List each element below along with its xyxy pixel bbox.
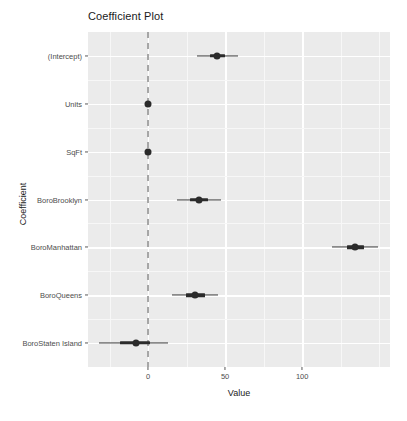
- gridline-major-horizontal: [88, 200, 390, 201]
- y-tick-label: Units: [65, 99, 82, 108]
- y-tick-label: BoroStaten Island: [22, 339, 82, 348]
- x-tick-mark: [148, 367, 149, 370]
- x-tick-label: 100: [296, 372, 309, 381]
- x-tick-label: 0: [146, 372, 150, 381]
- y-tick-mark: [85, 247, 88, 248]
- y-tick-label: BoroQueens: [40, 291, 82, 300]
- coefficient-point: [352, 244, 359, 251]
- y-tick-label: SqFt: [66, 147, 82, 156]
- gridline-minor-horizontal: [88, 80, 390, 81]
- gridline-minor-horizontal: [88, 223, 390, 224]
- coefficient-point: [132, 340, 139, 347]
- y-tick-mark: [85, 343, 88, 344]
- y-tick-label: (Intercept): [48, 51, 82, 60]
- gridline-major-horizontal: [88, 295, 390, 296]
- gridline-minor-horizontal: [88, 319, 390, 320]
- gridline-major-horizontal: [88, 104, 390, 105]
- plot-panel: [88, 32, 390, 367]
- gridline-minor-horizontal: [88, 271, 390, 272]
- y-tick-mark: [85, 103, 88, 104]
- y-tick-mark: [85, 295, 88, 296]
- y-tick-label: BoroManhattan: [31, 243, 82, 252]
- x-axis-title: Value: [88, 388, 390, 398]
- x-tick-mark: [225, 367, 226, 370]
- y-tick-mark: [85, 199, 88, 200]
- gridline-minor-horizontal: [88, 176, 390, 177]
- plot-title: Coefficient Plot: [88, 10, 163, 22]
- gridline-major-horizontal: [88, 56, 390, 57]
- y-tick-mark: [85, 151, 88, 152]
- coefficient-point: [145, 100, 152, 107]
- y-tick-label: BoroBrooklyn: [37, 195, 82, 204]
- coefficient-point: [192, 292, 199, 299]
- coefficient-point: [214, 52, 221, 59]
- x-tick-label: 50: [221, 372, 229, 381]
- y-tick-mark: [85, 55, 88, 56]
- zero-reference-line: [147, 32, 150, 367]
- y-axis-title: Coefficient: [18, 159, 28, 249]
- coefficient-plot: Coefficient Plot Coefficient Value BoroS…: [0, 0, 407, 421]
- gridline-minor-horizontal: [88, 128, 390, 129]
- coefficient-point: [195, 196, 202, 203]
- coefficient-point: [145, 148, 152, 155]
- gridline-major-horizontal: [88, 152, 390, 153]
- x-tick-mark: [302, 367, 303, 370]
